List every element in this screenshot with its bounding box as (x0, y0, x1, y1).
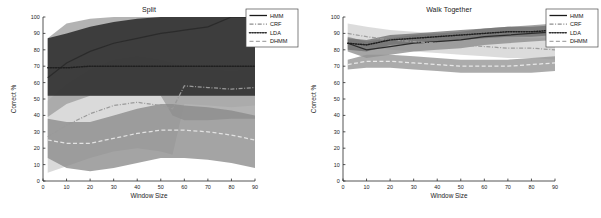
legend-label-hmm: HMM (570, 13, 584, 19)
chart-panel-split: Split 0102030405060708090100010203040506… (0, 0, 300, 218)
x-tick-label: 60 (481, 184, 487, 190)
y-tick-label: 70 (34, 63, 40, 69)
x-tick-label: 50 (158, 184, 164, 190)
y-tick-label: 40 (34, 112, 40, 118)
plot-area-walk-together: 0102030405060708090100010203040506070809… (300, 0, 600, 218)
legend-label-lda: LDA (270, 30, 281, 36)
x-tick-label: 20 (387, 184, 393, 190)
y-tick-label: 0 (37, 178, 40, 184)
y-axis-label: Correct % (10, 84, 17, 113)
y-tick-label: 90 (34, 30, 40, 36)
y-tick-label: 100 (331, 14, 340, 20)
y-tick-label: 30 (334, 129, 340, 135)
y-tick-label: 30 (34, 129, 40, 135)
legend-label-hmm: HMM (270, 13, 284, 19)
y-axis-label: Correct % (310, 84, 317, 113)
y-tick-label: 10 (34, 162, 40, 168)
y-tick-label: 20 (34, 145, 40, 151)
x-tick-label: 50 (458, 184, 464, 190)
x-tick-label: 0 (42, 184, 45, 190)
y-tick-label: 20 (334, 145, 340, 151)
x-tick-label: 20 (87, 184, 93, 190)
legend-label-dhmm: DHMM (570, 38, 588, 44)
x-tick-label: 80 (528, 184, 534, 190)
x-tick-label: 90 (552, 184, 558, 190)
x-axis-label: Window Size (431, 192, 468, 199)
y-tick-label: 90 (334, 30, 340, 36)
x-tick-label: 10 (364, 184, 370, 190)
figure-canvas: Split 0102030405060708090100010203040506… (0, 0, 601, 218)
x-tick-label: 80 (228, 184, 234, 190)
legend-label-crf: CRF (270, 21, 282, 27)
x-tick-label: 40 (434, 184, 440, 190)
x-tick-label: 70 (505, 184, 511, 190)
x-tick-label: 60 (181, 184, 187, 190)
y-tick-label: 60 (34, 80, 40, 86)
y-tick-label: 0 (337, 178, 340, 184)
x-tick-label: 70 (205, 184, 211, 190)
x-tick-label: 30 (111, 184, 117, 190)
legend-label-dhmm: DHMM (270, 38, 288, 44)
legend-label-crf: CRF (570, 21, 582, 27)
x-tick-label: 10 (64, 184, 70, 190)
plot-area-split: 0102030405060708090100010203040506070809… (0, 0, 300, 218)
x-tick-label: 40 (134, 184, 140, 190)
y-tick-label: 10 (334, 162, 340, 168)
y-tick-label: 50 (334, 96, 340, 102)
y-tick-label: 40 (334, 112, 340, 118)
x-tick-label: 30 (411, 184, 417, 190)
x-tick-label: 0 (342, 184, 345, 190)
legend-label-lda: LDA (570, 30, 581, 36)
x-axis-label: Window Size (131, 192, 168, 199)
y-tick-label: 70 (334, 63, 340, 69)
x-tick-label: 90 (252, 184, 258, 190)
y-tick-label: 80 (34, 47, 40, 53)
y-tick-label: 60 (334, 80, 340, 86)
y-tick-label: 50 (34, 96, 40, 102)
chart-panel-walk-together: Walk Together 01020304050607080901000102… (300, 0, 600, 218)
y-tick-label: 100 (31, 14, 40, 20)
legend: HMMCRFLDADHMM (246, 9, 298, 47)
legend: HMMCRFLDADHMM (546, 9, 598, 47)
y-tick-label: 80 (334, 47, 340, 53)
